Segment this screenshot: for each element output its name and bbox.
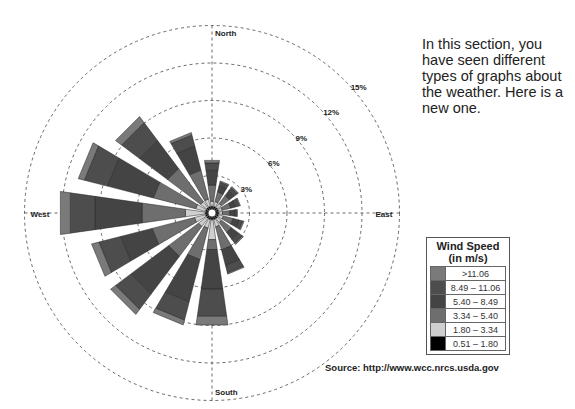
wind-rose-chart: NorthSouthWestEast3%6%9%12%15% <box>0 0 430 409</box>
legend-row: 0.51 – 1.80 <box>431 337 506 351</box>
legend-swatch <box>431 309 446 323</box>
legend-table: >11.068.49 – 11.065.40 – 8.493.34 – 5.40… <box>430 266 506 351</box>
west-label: West <box>31 210 50 219</box>
legend-label: 0.51 – 1.80 <box>446 337 506 351</box>
ring-label: 15% <box>351 83 367 92</box>
wind-speed-legend: Wind Speed (in m/s) >11.068.49 – 11.065.… <box>426 237 510 355</box>
petal-segment <box>196 316 228 325</box>
legend-title: Wind Speed (in m/s) <box>430 240 506 264</box>
center-calm-circle <box>208 209 216 217</box>
legend-row: 8.49 – 11.06 <box>431 281 506 295</box>
legend-swatch <box>431 337 446 351</box>
petal-segment <box>197 289 226 316</box>
petal-segment <box>142 203 185 223</box>
legend-row: 1.80 – 3.34 <box>431 323 506 337</box>
ring-label: 3% <box>241 185 253 194</box>
legend-label: >11.06 <box>446 267 506 281</box>
legend-label: 1.80 – 3.34 <box>446 323 506 337</box>
south-label: South <box>215 388 238 397</box>
petal-segment <box>207 240 217 250</box>
legend-label: 5.40 – 8.49 <box>446 295 506 309</box>
legend-title-line2: (in m/s) <box>430 252 506 264</box>
petal-segment <box>205 163 219 170</box>
legend-label: 8.49 – 11.06 <box>446 281 506 295</box>
source-citation: Source: http://www.wcc.nrcs.usda.gov <box>325 362 499 373</box>
legend-row: >11.06 <box>431 267 506 281</box>
petal-segment <box>219 212 223 215</box>
petal-segment <box>60 191 70 234</box>
ring-label: 6% <box>268 159 280 168</box>
petal-segment <box>95 196 142 229</box>
petal-segment <box>208 185 216 201</box>
petal-segment <box>235 209 237 216</box>
petal-segment <box>201 250 223 290</box>
east-label: East <box>376 210 393 219</box>
petal-segment <box>206 170 218 185</box>
ring-label: 12% <box>323 108 339 117</box>
petal-segment <box>230 210 235 217</box>
legend-label: 3.34 – 5.40 <box>446 309 506 323</box>
legend-swatch <box>431 267 446 281</box>
petal-segment <box>210 201 213 206</box>
legend-row: 3.34 – 5.40 <box>431 309 506 323</box>
intro-text: In this section, you have seen different… <box>422 36 574 116</box>
legend-swatch <box>431 323 446 337</box>
north-label: North <box>215 29 236 38</box>
legend-swatch <box>431 295 446 309</box>
petal-segment <box>205 160 220 162</box>
petal-segment <box>223 210 230 215</box>
petal-segment <box>70 193 95 233</box>
legend-title-line1: Wind Speed <box>430 240 506 252</box>
wind-petals <box>60 117 244 325</box>
legend-row: 5.40 – 8.49 <box>431 295 506 309</box>
legend-swatch <box>431 281 446 295</box>
ring-label: 9% <box>296 134 308 143</box>
